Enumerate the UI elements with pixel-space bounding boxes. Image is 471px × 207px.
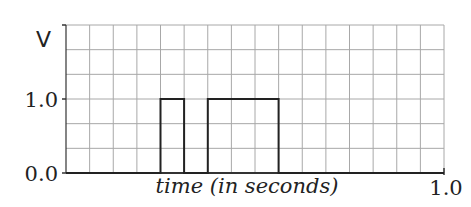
x-tick-label-end: 1.0: [429, 176, 462, 200]
y-tick-label-high: 1.0: [25, 88, 58, 112]
y-tick-label-low: 0.0: [25, 162, 58, 186]
y-axis-label: V: [36, 27, 51, 52]
voltage-time-chart: V 1.0 0.0 time (in seconds) 1.0: [0, 0, 471, 207]
x-axis-label: time (in seconds): [156, 174, 339, 198]
